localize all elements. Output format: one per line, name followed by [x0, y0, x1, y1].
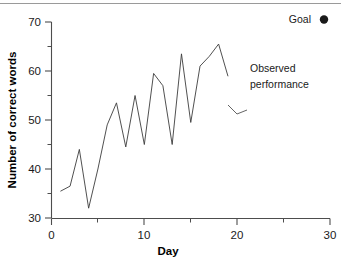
legend: Goal [289, 13, 328, 25]
chart-figure: 70 60 50 40 30 Number of correct words 0… [0, 0, 341, 266]
annotation-leader-line [228, 105, 247, 114]
legend-label-goal: Goal [289, 13, 311, 25]
y-tick-label-30: 30 [28, 212, 41, 224]
x-tick-label-20: 20 [231, 229, 244, 241]
x-tick-label-30: 30 [324, 229, 337, 241]
annotation-line-2: performance [250, 78, 309, 90]
x-axis-title: Day [157, 245, 179, 257]
x-tick-label-0: 0 [48, 229, 54, 241]
y-tick-label-40: 40 [28, 163, 41, 175]
series-group [61, 44, 228, 208]
y-tick-label-60: 60 [28, 65, 41, 77]
y-tick-label-50: 50 [28, 114, 41, 126]
line-chart-plot: 70 60 50 40 30 Number of correct words 0… [0, 0, 341, 266]
goal-marker-icon [320, 15, 328, 23]
y-axis-title: Number of correct words [6, 52, 18, 189]
annotation-line-1: Observed [250, 62, 296, 74]
x-tick-label-10: 10 [138, 229, 151, 241]
annotation-observed-performance: Observed performance [250, 62, 309, 90]
x-axis: 0 10 20 30 Day [48, 219, 336, 258]
y-tick-label-70: 70 [28, 16, 41, 28]
series-observed-performance [61, 44, 228, 208]
y-axis: 70 60 50 40 30 Number of correct words [6, 16, 52, 224]
